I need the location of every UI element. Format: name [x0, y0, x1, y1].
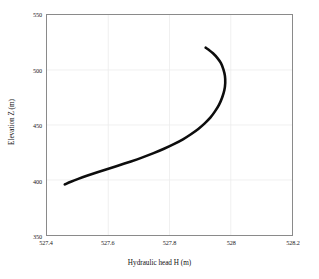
plot-area: [46, 14, 293, 236]
x-tick-label: 528: [227, 239, 236, 246]
y-tick-label: 550: [18, 11, 42, 18]
x-axis-title: Hydraulic head H (m): [0, 259, 319, 267]
x-tick-label: 528.2: [286, 239, 299, 246]
x-tick-label: 527.8: [163, 239, 176, 246]
x-tick-label: 527.6: [101, 239, 114, 246]
y-tick-label: 450: [18, 122, 42, 129]
y-axis-title: Elevation Z (m): [8, 72, 16, 172]
data-series-line: [65, 48, 226, 185]
y-tick-label: 400: [18, 177, 42, 184]
x-tick-label: 527.4: [39, 239, 52, 246]
data-curve-layer: [47, 15, 292, 235]
y-tick-label: 500: [18, 66, 42, 73]
figure-canvas: 350400450500550 527.4527.6527.8528528.2 …: [0, 0, 319, 279]
